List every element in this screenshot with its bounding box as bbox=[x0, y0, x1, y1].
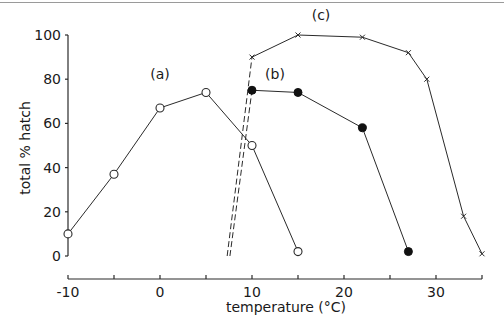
series-line bbox=[252, 35, 482, 254]
open-circle-marker bbox=[64, 230, 72, 238]
series-line bbox=[68, 92, 298, 251]
y-tick-label: 20 bbox=[43, 204, 61, 220]
x-axis-label: temperature (°C) bbox=[226, 299, 346, 315]
x-tick-label: 20 bbox=[335, 284, 353, 300]
x-tick-label: 30 bbox=[427, 284, 445, 300]
series-b: (b) bbox=[248, 66, 412, 255]
open-circle-marker bbox=[294, 248, 302, 256]
y-tick-label: 60 bbox=[43, 115, 61, 131]
filled-circle-marker bbox=[404, 248, 412, 256]
series-label: (c) bbox=[312, 7, 331, 23]
series-line bbox=[252, 90, 408, 251]
y-tick-label: 100 bbox=[34, 27, 61, 43]
series-c: (c) bbox=[250, 7, 485, 257]
open-circle-marker bbox=[110, 170, 118, 178]
cross-marker bbox=[406, 50, 411, 55]
dashed-line bbox=[230, 90, 252, 256]
x-tick-label: -10 bbox=[57, 284, 80, 300]
dashed-extrapolation-lines bbox=[227, 57, 252, 256]
cross-marker bbox=[480, 251, 485, 256]
y-tick-label: 80 bbox=[43, 71, 61, 87]
x-tick-label: 10 bbox=[243, 284, 261, 300]
data-series: (a)(b)(c) bbox=[64, 7, 485, 257]
series-label: (b) bbox=[265, 66, 285, 82]
x-tick-label: 0 bbox=[156, 284, 165, 300]
y-tick-label: 40 bbox=[43, 160, 61, 176]
hatch-temperature-chart: 020406080100-100102030 (a)(b)(c) tempera… bbox=[0, 0, 504, 332]
filled-circle-marker bbox=[294, 88, 302, 96]
axes: 020406080100-100102030 bbox=[34, 27, 482, 300]
y-axis-label: total % hatch bbox=[17, 101, 33, 195]
filled-circle-marker bbox=[248, 86, 256, 94]
open-circle-marker bbox=[202, 88, 210, 96]
open-circle-marker bbox=[156, 104, 164, 112]
series-label: (a) bbox=[150, 66, 170, 82]
series-a: (a) bbox=[64, 66, 302, 255]
filled-circle-marker bbox=[358, 124, 366, 132]
dashed-line bbox=[227, 57, 252, 256]
y-tick-label: 0 bbox=[52, 248, 61, 264]
open-circle-marker bbox=[248, 142, 256, 150]
